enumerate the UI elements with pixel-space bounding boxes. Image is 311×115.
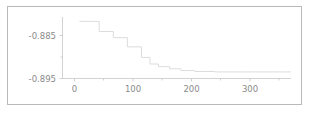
x-tick-label-100: 100 — [125, 84, 141, 94]
x-tick-marks — [75, 79, 280, 82]
chart-plot: -0.885 -0.895 0 100 200 300 — [0, 0, 311, 115]
figure-container: -0.885 -0.895 0 100 200 300 — [0, 0, 311, 115]
step-curve-line — [79, 21, 291, 72]
x-tick-label-300: 300 — [242, 84, 258, 94]
y-tick-label-lower: -0.895 — [29, 74, 56, 84]
x-tick-label-0: 0 — [72, 84, 77, 94]
y-tick-label-upper: -0.885 — [29, 31, 56, 41]
x-tick-label-200: 200 — [183, 84, 199, 94]
y-tick-marks — [60, 36, 63, 79]
